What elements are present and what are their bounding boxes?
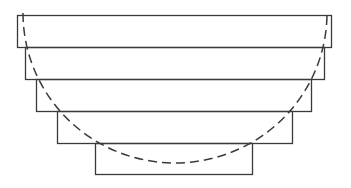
diagram-canvas [0,0,351,188]
step-rectangle-2 [26,48,325,80]
step-rectangle-1 [18,16,332,48]
step-rectangle-5 [96,144,253,175]
step-rectangle-3 [37,80,312,112]
dashed-semicircle-arc [23,13,327,163]
stepped-semicircle-diagram [0,0,351,188]
rectangle-stack [18,16,332,175]
